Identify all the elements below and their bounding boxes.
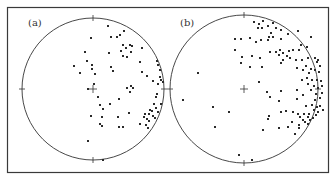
pole-point xyxy=(153,103,155,105)
pole-point xyxy=(86,60,88,62)
pole-point xyxy=(296,89,298,91)
pole-point xyxy=(162,81,164,83)
pole-point xyxy=(126,87,128,89)
pole-point xyxy=(314,57,316,59)
pole-point xyxy=(249,66,251,68)
stereonet-a: (a) xyxy=(19,15,167,163)
pole-point xyxy=(268,115,270,117)
pole-point xyxy=(261,66,263,68)
pole-point xyxy=(141,71,143,73)
pole-point xyxy=(110,66,112,68)
pole-point xyxy=(302,69,304,71)
pole-point xyxy=(146,118,148,120)
pole-point xyxy=(297,113,299,115)
pole-point xyxy=(287,33,289,35)
pole-point xyxy=(159,76,161,78)
pole-point xyxy=(266,91,268,93)
pole-point xyxy=(267,118,269,120)
pole-point xyxy=(292,111,294,113)
pole-point xyxy=(90,115,92,117)
pole-point xyxy=(306,77,308,79)
pole-point xyxy=(93,83,95,85)
pole-point xyxy=(160,79,162,81)
pole-point xyxy=(314,99,316,101)
pole-point xyxy=(315,93,317,95)
pole-point xyxy=(253,21,255,23)
pole-point xyxy=(280,38,282,40)
pole-point xyxy=(319,97,321,99)
pole-point xyxy=(110,36,112,38)
pole-point xyxy=(129,44,131,46)
pole-point xyxy=(141,47,143,49)
pole-point xyxy=(315,114,317,116)
pole-point xyxy=(280,111,282,113)
pole-point xyxy=(305,105,307,107)
pole-point xyxy=(318,71,320,73)
pole-point xyxy=(112,70,114,72)
pole-point xyxy=(288,50,290,52)
pole-point xyxy=(148,113,150,115)
pole-point xyxy=(260,39,262,41)
pole-point xyxy=(157,64,159,66)
pole-point xyxy=(305,65,307,67)
pole-point xyxy=(307,57,309,59)
pole-point xyxy=(197,72,199,74)
pole-point xyxy=(258,23,260,25)
pole-point xyxy=(291,121,293,123)
pole-point xyxy=(119,34,121,36)
pole-point xyxy=(270,32,272,34)
pole-point xyxy=(149,109,151,111)
pole-point xyxy=(267,39,269,41)
pole-point xyxy=(311,79,313,81)
pole-point xyxy=(126,56,128,58)
pole-point xyxy=(308,72,310,74)
pole-point xyxy=(240,38,242,40)
pole-point xyxy=(301,59,303,61)
pole-point xyxy=(280,62,282,64)
pole-point xyxy=(251,159,253,161)
pole-point xyxy=(275,27,277,29)
pole-point xyxy=(307,116,309,118)
pole-point xyxy=(87,88,89,90)
pole-point xyxy=(282,59,284,61)
pole-point xyxy=(107,25,109,27)
pole-point xyxy=(259,57,261,59)
pole-point xyxy=(79,72,81,74)
pole-point xyxy=(238,154,240,156)
pole-point xyxy=(146,75,148,77)
pole-point xyxy=(285,110,287,112)
pole-point xyxy=(234,49,236,51)
panel-label-a: (a) xyxy=(28,17,42,28)
pole-point xyxy=(275,51,277,53)
pole-point xyxy=(157,111,159,113)
pole-point xyxy=(312,117,314,119)
pole-point xyxy=(144,113,146,115)
pole-point xyxy=(118,126,120,128)
pole-point xyxy=(278,127,280,129)
pole-point xyxy=(279,49,281,51)
pole-point xyxy=(272,36,274,38)
pole-point xyxy=(152,115,154,117)
pole-point xyxy=(278,54,280,56)
pole-point xyxy=(282,52,284,54)
pole-point xyxy=(91,64,93,66)
pole-point xyxy=(313,109,315,111)
pole-point xyxy=(94,73,96,75)
pole-point xyxy=(228,111,230,113)
pole-point xyxy=(309,119,311,121)
pole-point xyxy=(272,22,274,24)
pole-point xyxy=(214,126,216,128)
pole-point xyxy=(117,116,119,118)
pole-point xyxy=(298,124,300,126)
pole-point xyxy=(317,111,319,113)
pole-point xyxy=(73,65,75,67)
pole-point xyxy=(241,56,243,58)
pole-point xyxy=(286,55,288,57)
pole-point xyxy=(152,80,154,82)
pole-point xyxy=(240,62,242,64)
pole-point xyxy=(289,57,291,59)
pole-point xyxy=(296,67,298,69)
pole-point xyxy=(300,44,302,46)
pole-point xyxy=(262,20,264,22)
pole-point xyxy=(301,79,303,81)
